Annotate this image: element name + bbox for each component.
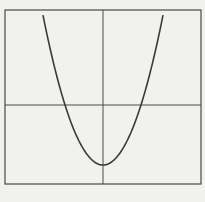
parabola-plot [0, 0, 205, 202]
